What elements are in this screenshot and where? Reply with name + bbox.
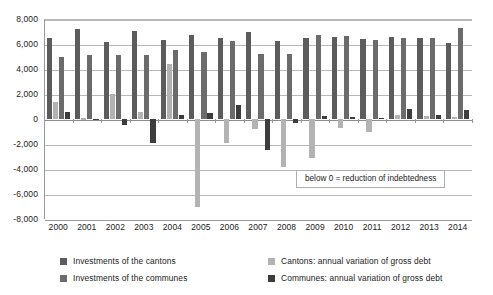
legend-item-investments-cantons[interactable]: Investments of the cantons (60, 256, 176, 266)
y-axis-tick-label: -2,000 (0, 139, 38, 149)
bar (338, 119, 343, 128)
x-axis-tick-mark (272, 119, 273, 123)
x-axis-tick-mark (187, 119, 188, 123)
bar (350, 117, 355, 120)
y-axis-tick-label: 2,000 (0, 89, 38, 99)
bar (293, 119, 298, 123)
bar-group-2002 (104, 19, 128, 219)
y-axis-tick-label: -6,000 (0, 189, 38, 199)
bar (424, 116, 429, 119)
bar-chart: 8,0006,0004,0002,0000-2,000-4,000-6,000-… (0, 0, 493, 295)
bar (430, 38, 435, 119)
bar (458, 28, 463, 119)
bar (417, 38, 422, 119)
bar (395, 115, 400, 119)
legend-swatch-icon (268, 275, 275, 282)
bar (436, 115, 441, 119)
bar (132, 31, 137, 119)
bar (110, 94, 115, 119)
bar (316, 35, 321, 119)
bar (161, 40, 166, 119)
bar-group-2001 (75, 19, 99, 219)
bar-group-2013 (417, 19, 441, 219)
x-axis-tick-mark (73, 119, 74, 123)
gridline (45, 220, 472, 221)
x-axis-tick-label: 2000 (44, 222, 73, 232)
legend-item-label: Investments of the cantons (73, 256, 176, 266)
x-axis-tick-label: 2007 (244, 222, 273, 232)
bar-group-2000 (47, 19, 71, 219)
x-axis-tick-label: 2002 (101, 222, 130, 232)
bar (360, 39, 365, 119)
bar-group-2011 (360, 19, 384, 219)
bar (81, 118, 86, 119)
bar-group-2008 (275, 19, 299, 219)
bar (344, 36, 349, 119)
bar (150, 119, 155, 143)
bar (258, 54, 263, 119)
bar-group-2014 (446, 19, 470, 219)
x-axis-tick-mark (215, 119, 216, 123)
bar (236, 105, 241, 119)
legend-item-label: Investments of the communes (73, 273, 187, 283)
bar (224, 119, 229, 143)
legend-swatch-icon (268, 258, 275, 265)
x-axis-tick-label: 2001 (73, 222, 102, 232)
legend-item-cantons-gross-debt[interactable]: Cantons: annual variation of gross debt (268, 256, 431, 266)
bar (173, 50, 178, 119)
x-axis-tick-label: 2006 (215, 222, 244, 232)
y-axis-tick-label: 8,000 (0, 14, 38, 24)
bar (230, 41, 235, 119)
bar (53, 102, 58, 120)
bar (366, 119, 371, 132)
bar (201, 52, 206, 119)
bar (189, 35, 194, 119)
bar-group-2003 (132, 19, 156, 219)
legend-item-label: Cantons: annual variation of gross debt (281, 256, 431, 266)
bar (446, 43, 451, 119)
bar (47, 38, 52, 119)
legend-swatch-icon (60, 275, 67, 282)
bar (309, 119, 314, 158)
bar (265, 119, 270, 150)
x-axis-tick-mark (386, 119, 387, 123)
bar (379, 118, 384, 119)
x-axis-tick-mark (244, 119, 245, 123)
legend-item-investments-communes[interactable]: Investments of the communes (60, 273, 187, 283)
bar (281, 119, 286, 167)
x-axis-tick-label: 2014 (443, 222, 472, 232)
bar (195, 119, 200, 207)
bar (287, 54, 292, 119)
bar-group-2012 (389, 19, 413, 219)
x-axis-tick-mark (101, 119, 102, 123)
bar-group-2004 (161, 19, 185, 219)
bar (464, 110, 469, 119)
bar (59, 57, 64, 119)
x-axis-tick-mark (158, 119, 159, 123)
bar (373, 40, 378, 119)
bar (303, 38, 308, 119)
bar (218, 38, 223, 119)
x-axis-tick-label: 2011 (358, 222, 387, 232)
y-axis-tick-label: 6,000 (0, 39, 38, 49)
x-axis-tick-label: 2004 (158, 222, 187, 232)
bar (207, 113, 212, 119)
bars-layer (44, 19, 472, 219)
bar-group-2010 (332, 19, 356, 219)
legend-swatch-icon (60, 258, 67, 265)
y-axis-tick-label: -4,000 (0, 164, 38, 174)
legend-item-communes-gross-debt[interactable]: Communes: annual variation of gross debt (268, 273, 442, 283)
bar (167, 64, 172, 119)
bar (144, 55, 149, 119)
x-axis-tick-label: 2013 (415, 222, 444, 232)
bar (138, 112, 143, 120)
bar (407, 109, 412, 119)
y-axis-tick-label: -8,000 (0, 214, 38, 224)
x-axis-tick-mark (472, 119, 473, 123)
annotation-below-zero: below 0 = reduction of indebtedness (296, 170, 445, 188)
x-axis-tick-mark (329, 119, 330, 123)
x-axis-tick-mark (443, 119, 444, 123)
x-axis-tick-label: 2010 (329, 222, 358, 232)
bar (122, 119, 127, 125)
bar (322, 116, 327, 119)
